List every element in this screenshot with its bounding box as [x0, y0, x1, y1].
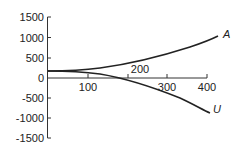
y-tick: -500 [22, 92, 44, 104]
y-tick: -1500 [16, 132, 44, 144]
y-tick-labels: 1500 1000 500 0 -500 -1000 -1500 [16, 11, 44, 144]
x-axis [48, 74, 208, 78]
y-tick: 1500 [20, 11, 44, 23]
x-tick: 400 [198, 81, 216, 93]
series-a-label: A [222, 28, 230, 40]
y-tick: -1000 [16, 112, 44, 124]
x-tick: 100 [79, 81, 97, 93]
chart: 1500 1000 500 0 -500 -1000 -1500 100 200… [0, 0, 235, 150]
series-u-label: U [213, 103, 221, 115]
x-tick: 200 [131, 63, 149, 75]
series-u-line [48, 71, 210, 113]
y-tick: 1000 [20, 32, 44, 44]
y-tick: 500 [26, 52, 44, 64]
y-tick: 0 [38, 72, 44, 84]
